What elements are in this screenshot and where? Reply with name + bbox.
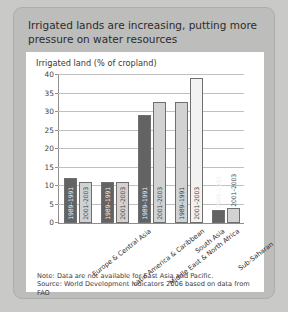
bar[interactable]: 1989–1991 [212,210,225,223]
y-tickmark [55,74,58,75]
y-tick-label: 40 [45,70,54,79]
plot-area: 0 5 10 15 20 25 30 35 40 1989–1991 2001–… [58,74,244,223]
bar-group-sub-saharan-africa: 1989–1991 2001–2003 [207,74,244,223]
x-axis-line [58,223,244,224]
bar-year-label: 2001–2003 [156,187,163,220]
note-text: Note: Data are not available for East As… [37,272,259,280]
category-label: Sub-Saharan Africa [238,228,275,273]
y-tickmark [55,111,58,112]
bar[interactable]: 1989–1991 [138,115,151,223]
y-axis-label: Irrigated land (% of cropland) [36,58,157,68]
page-title: Irrigated lands are increasing, putting … [28,19,262,46]
bar-year-label: 2001–2003 [193,187,200,220]
bar-year-label: 1989–1991 [178,187,185,220]
y-tick-label: 0 [49,218,54,227]
y-tickmark [55,93,58,94]
category-slot: South Asia [171,225,208,271]
source-text: Source: World Development Indicators 200… [37,280,259,297]
category-slot: Middle East & North Africa [133,225,170,271]
bar-year-label: 1989–1991 [104,187,111,220]
y-tickmark [55,204,58,205]
bar-group-latin-america-caribbean: 1989–1991 2001–2003 [96,74,133,223]
category-slot: Europe & Central Asia [59,225,96,271]
bar-year-label: 2001–2003 [82,187,89,220]
y-tickmark [55,185,58,186]
y-tickmark [55,148,58,149]
y-tick-label: 35 [45,88,54,97]
y-tick-label: 25 [45,125,54,134]
y-tickmark [55,130,58,131]
bar-group-south-asia: 1989–1991 2001–2003 [170,74,207,223]
bar[interactable]: 1989–1991 [175,102,188,223]
y-tick-label: 5 [49,199,54,208]
bar[interactable]: 1989–1991 [64,178,77,223]
category-slot: Sub-Saharan Africa [208,225,245,271]
bar[interactable]: 2001–2003 [227,208,240,223]
bar[interactable]: 2001–2003 [79,182,92,223]
bar-group-middle-east-north-africa: 1989–1991 2001–2003 [133,74,170,223]
bar-year-label: 1989–1991 [141,187,148,220]
x-axis-categories: Europe & Central Asia Latin America & Ca… [59,225,245,271]
bar[interactable]: 2001–2003 [153,102,166,223]
bar[interactable]: 2001–2003 [116,182,129,223]
bar-groups: 1989–1991 2001–2003 1989–1991 2001–2003 [59,74,244,223]
bar-year-label: 2001–2003 [230,174,237,207]
bar-year-label: 1989–1991 [67,187,74,220]
chart-footnote: Note: Data are not available for East As… [37,272,259,297]
bar[interactable]: 2001–2003 [190,78,203,223]
chart-card: Irrigated lands are increasing, putting … [13,7,275,299]
y-tick-label: 15 [45,162,54,171]
bar[interactable]: 1989–1991 [101,182,114,223]
chart-panel: Irrigated land (% of cropland) 0 5 10 15 [26,52,264,292]
bar-group-europe-central-asia: 1989–1991 2001–2003 [59,74,96,223]
y-tickmark [55,167,58,168]
y-tick-label: 30 [45,107,54,116]
category-slot: Latin America & Caribbean [96,225,133,271]
y-tick-label: 20 [45,144,54,153]
bar-year-label: 1989–1991 [215,176,222,209]
y-tick-label: 10 [45,181,54,190]
bar-year-label: 2001–2003 [119,187,126,220]
